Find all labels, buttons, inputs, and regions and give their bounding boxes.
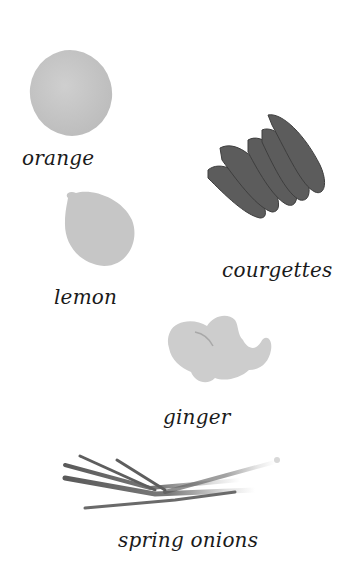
lemon-label: lemon (54, 285, 117, 309)
courgettes-image (200, 110, 330, 220)
courgettes-label: courgettes (222, 258, 333, 282)
spring-onions-label: spring onions (118, 528, 258, 552)
spring-onions-image (55, 450, 285, 520)
orange-image (28, 48, 118, 140)
lemon-image (62, 190, 138, 270)
ginger-image (165, 312, 275, 392)
orange-label: orange (22, 146, 94, 170)
ginger-label: ginger (163, 405, 230, 429)
